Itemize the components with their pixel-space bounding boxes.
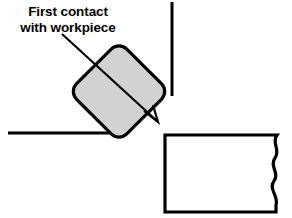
callout-line-2: with workpiece (20, 20, 115, 35)
diagram-canvas: First contactwith workpiece (0, 0, 292, 218)
callout-label: First contactwith workpiece (6, 4, 130, 36)
tool-shape-group (69, 41, 169, 141)
workpiece-block (165, 135, 277, 212)
callout-line-1: First contact (28, 4, 108, 19)
rotated-square-tool (69, 41, 169, 141)
